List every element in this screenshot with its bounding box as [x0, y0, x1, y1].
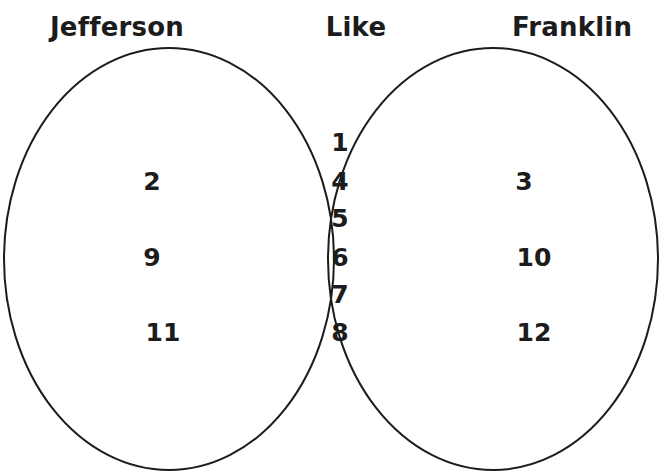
right-item: 3 [515, 167, 532, 196]
shared-item: 5 [331, 204, 348, 233]
shared-item: 4 [331, 167, 348, 196]
like-heading: Like [326, 12, 387, 42]
franklin-circle [328, 48, 658, 470]
shared-item: 8 [331, 318, 348, 347]
left-item: 2 [143, 167, 160, 196]
venn-diagram [0, 0, 664, 473]
shared-item: 1 [331, 128, 348, 157]
right-item: 12 [517, 318, 552, 347]
shared-item: 6 [331, 243, 348, 272]
shared-item: 7 [331, 280, 348, 309]
jefferson-heading: Jefferson [50, 12, 184, 42]
left-item: 9 [143, 243, 160, 272]
jefferson-circle [4, 48, 334, 470]
right-item: 10 [517, 243, 552, 272]
left-item: 11 [146, 318, 181, 347]
franklin-heading: Franklin [512, 12, 632, 42]
